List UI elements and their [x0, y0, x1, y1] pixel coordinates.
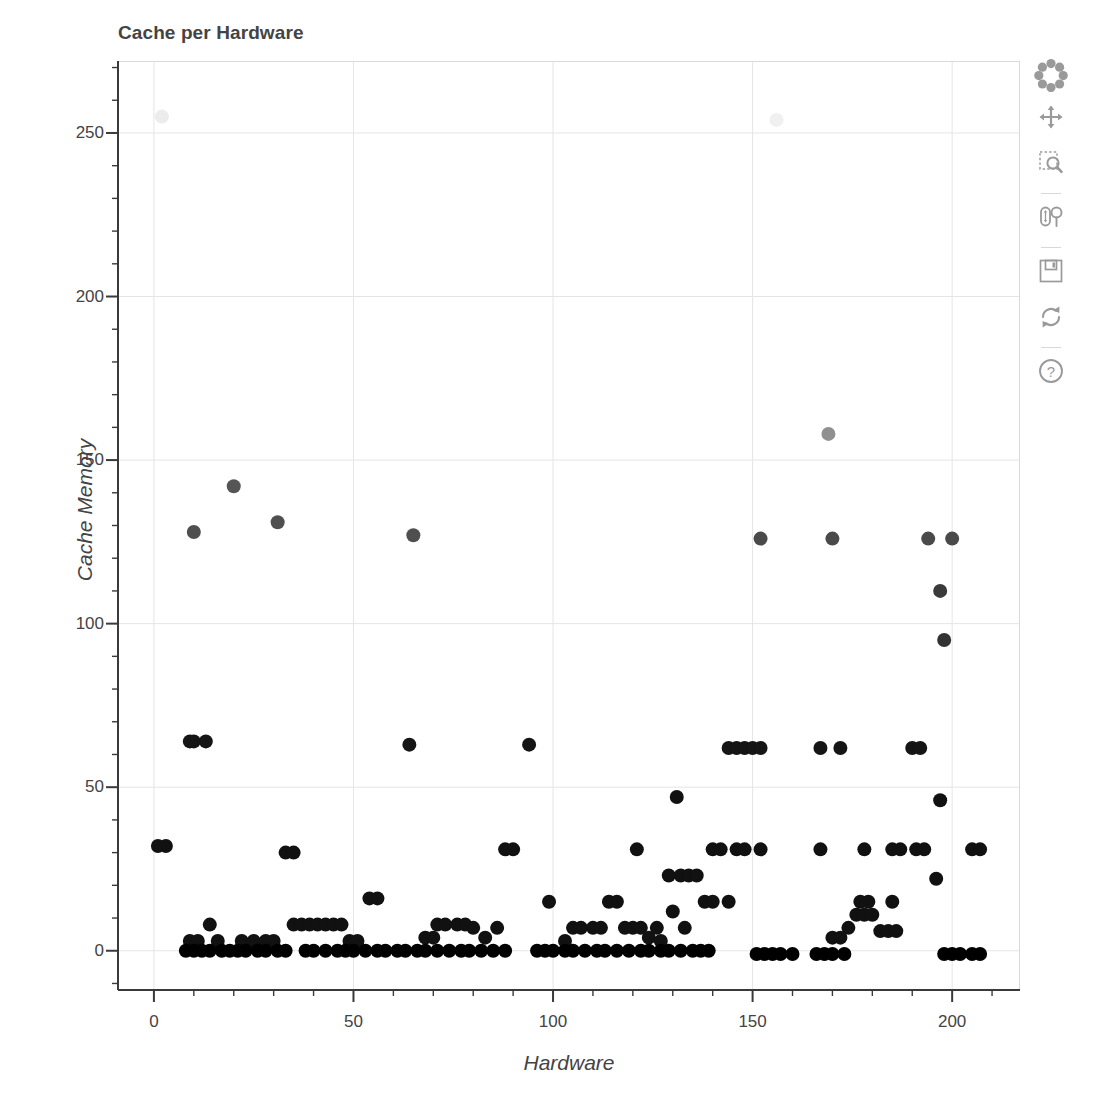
help-tool[interactable]: ? — [1034, 354, 1068, 388]
bokeh-plot-root: Cache per Hardware 050100150200250 05010… — [0, 0, 1093, 1109]
y-axis-title: Cache Memory — [73, 410, 97, 610]
toolbar-separator — [1041, 193, 1061, 194]
x-tick-label: 50 — [344, 1012, 363, 1032]
toolbar-separator — [1041, 347, 1061, 348]
pan-tool[interactable] — [1034, 100, 1068, 134]
figure: 050100150200250 050100150200 Cache Memor… — [0, 0, 1093, 1109]
box-zoom-tool[interactable] — [1034, 146, 1068, 180]
save-tool[interactable] — [1034, 254, 1068, 288]
x-axis-title: Hardware — [118, 1051, 1020, 1075]
x-axis-tick-labels: 050100150200 — [0, 0, 1093, 1109]
wheel-zoom-tool[interactable] — [1034, 200, 1068, 234]
x-tick-label: 100 — [539, 1012, 567, 1032]
plot-toolbar[interactable]: ? — [1028, 58, 1074, 400]
reset-tool[interactable] — [1034, 300, 1068, 334]
toolbar-separator — [1041, 247, 1061, 248]
x-tick-label: 0 — [149, 1012, 158, 1032]
bokeh-logo-icon — [1034, 58, 1068, 92]
svg-text:?: ? — [1047, 363, 1055, 380]
x-tick-label: 150 — [738, 1012, 766, 1032]
x-tick-label: 200 — [938, 1012, 966, 1032]
